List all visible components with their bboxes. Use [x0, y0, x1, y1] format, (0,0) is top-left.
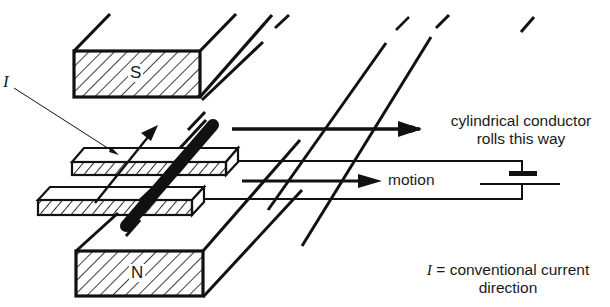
legend-line2: direction: [408, 279, 608, 297]
rail-guide-dash: [521, 17, 534, 32]
current-arrow-head: [141, 125, 158, 141]
conductor-direction-label: cylindrical conductor rolls this way: [436, 112, 606, 148]
legend-text: conventional current: [450, 261, 590, 278]
south-magnet: [74, 14, 272, 97]
motion-label: motion: [388, 171, 435, 189]
south-pole-label: S: [128, 64, 143, 82]
north-pole-label: N: [129, 264, 145, 282]
conductor-direction-line2: rolls this way: [436, 130, 606, 148]
legend-line1: I = conventional current: [408, 261, 608, 279]
upper-rail: [72, 148, 238, 175]
legend-symbol: I: [427, 261, 432, 278]
conductor-direction-line1: cylindrical conductor: [436, 112, 606, 130]
current-symbol-label: I: [3, 73, 9, 91]
legend: I = conventional current direction: [408, 261, 608, 297]
force-arrow-head: [398, 121, 422, 137]
lower-rail: [38, 187, 204, 215]
rail-guide-dash: [275, 15, 289, 28]
legend-equals: =: [436, 261, 445, 278]
motion-arrow-head: [358, 174, 382, 188]
rail-guide-dash: [436, 15, 449, 28]
rail-guide-dash: [396, 17, 409, 30]
battery-negative-plate: [509, 171, 537, 176]
